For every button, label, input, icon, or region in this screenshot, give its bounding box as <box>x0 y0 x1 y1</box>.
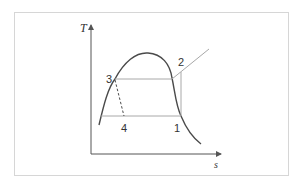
t-axis-label: T <box>80 21 88 35</box>
state-label-3: 3 <box>106 73 112 85</box>
state-label-1: 1 <box>174 122 180 134</box>
state-label-2: 2 <box>178 56 184 68</box>
ts-diagram: T s 3 2 4 1 <box>0 0 298 185</box>
state-label-4: 4 <box>121 122 127 134</box>
s-axis-label: s <box>214 159 218 170</box>
saturation-dome <box>99 53 201 144</box>
throttle-line-3-to-4 <box>115 80 124 116</box>
